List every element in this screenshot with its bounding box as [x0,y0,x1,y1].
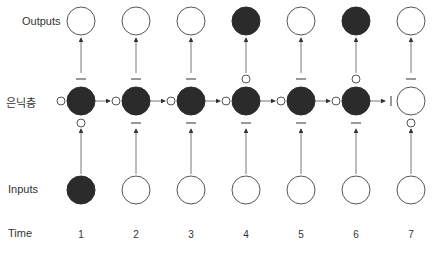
input-node-1 [67,176,95,204]
input-node-4 [232,176,260,204]
bottom-gate-7-open-gate-icon [407,119,415,127]
output-node-2 [122,7,150,35]
input-node-3 [177,176,205,204]
output-node-3 [177,7,205,35]
output-node-5 [287,7,315,35]
input-node-7 [397,176,425,204]
time-step-label-6: 6 [353,229,359,240]
time-step-label-5: 5 [298,229,304,240]
hidden-node-5 [287,87,315,115]
input-node-6 [342,176,370,204]
rnn-gating-diagram: 1234567 [0,0,434,253]
left-gate-1-open-gate-icon [57,97,65,105]
hidden-node-4 [232,87,260,115]
hidden-node-7 [397,87,425,115]
hidden-node-6 [342,87,370,115]
hidden-node-3 [177,87,205,115]
time-step-label-1: 1 [78,229,84,240]
hidden-node-1 [67,87,95,115]
time-step-label-3: 3 [188,229,194,240]
left-gate-5-open-gate-icon [277,97,285,105]
output-node-7 [397,7,425,35]
left-gate-4-open-gate-icon [222,97,230,105]
left-gate-6-open-gate-icon [332,97,340,105]
top-gate-4-open-gate-icon [242,75,250,83]
output-node-6 [342,7,370,35]
input-node-5 [287,176,315,204]
left-gate-3-open-gate-icon [167,97,175,105]
output-node-4 [232,7,260,35]
time-step-label-2: 2 [133,229,139,240]
time-step-label-4: 4 [243,229,249,240]
left-gate-2-open-gate-icon [112,97,120,105]
input-node-2 [122,176,150,204]
time-step-label-7: 7 [408,229,414,240]
bottom-gate-1-open-gate-icon [77,119,85,127]
hidden-node-2 [122,87,150,115]
output-node-1 [67,7,95,35]
top-gate-6-open-gate-icon [352,75,360,83]
